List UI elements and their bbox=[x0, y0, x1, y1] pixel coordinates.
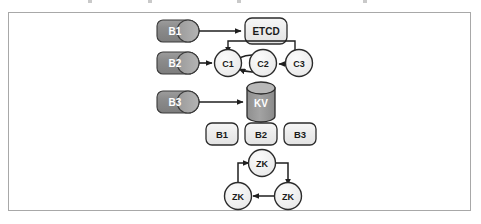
zk-bottom-right-circle[interactable]: ZK bbox=[275, 183, 302, 210]
row-consul: B2 C1 C2 C3 bbox=[157, 41, 313, 77]
row-kv: B3 KV bbox=[157, 82, 275, 122]
b2-cylinder[interactable]: B2 bbox=[157, 52, 199, 74]
c1-circle-label: C1 bbox=[222, 59, 234, 69]
architecture-diagram: B1 ETCD B2 bbox=[0, 0, 481, 224]
b2-box[interactable]: B2 bbox=[245, 123, 277, 145]
kv-cylinder[interactable]: KV bbox=[247, 82, 275, 122]
b3-cylinder[interactable]: B3 bbox=[157, 91, 199, 113]
row-zookeeper: ZK ZK ZK bbox=[225, 150, 302, 210]
etcd-box[interactable]: ETCD bbox=[245, 18, 287, 44]
row-etcd: B1 ETCD bbox=[157, 18, 287, 44]
c2-circle-label: C2 bbox=[257, 59, 269, 69]
kv-cylinder-label: KV bbox=[254, 98, 268, 109]
c3-circle[interactable]: C3 bbox=[286, 50, 313, 77]
b1-cylinder-top-label: B1 bbox=[169, 26, 182, 37]
c2-circle[interactable]: C2 bbox=[250, 50, 277, 77]
b1-box-label: B1 bbox=[216, 129, 229, 140]
c3-circle-label: C3 bbox=[293, 59, 305, 69]
b3-box[interactable]: B3 bbox=[284, 123, 316, 145]
kv-cylinder-top bbox=[247, 82, 275, 94]
edge-zk-top-to-zk-br bbox=[276, 163, 288, 185]
row-broker-boxes: B1 B2 B3 bbox=[206, 123, 316, 145]
b2-box-label: B2 bbox=[255, 129, 267, 140]
screenshot-root: B1 ETCD B2 bbox=[0, 0, 481, 224]
b1-cylinder-top[interactable]: B1 bbox=[157, 20, 199, 42]
zk-top-circle[interactable]: ZK bbox=[249, 150, 276, 177]
b1-box[interactable]: B1 bbox=[206, 123, 238, 145]
zk-bottom-right-circle-label: ZK bbox=[282, 192, 294, 202]
zk-bottom-left-circle[interactable]: ZK bbox=[225, 183, 252, 210]
zk-bottom-left-circle-label: ZK bbox=[232, 192, 244, 202]
c1-circle[interactable]: C1 bbox=[215, 50, 242, 77]
b3-cylinder-label: B3 bbox=[169, 97, 182, 108]
etcd-box-label: ETCD bbox=[252, 26, 279, 37]
b3-box-label: B3 bbox=[294, 129, 306, 140]
zk-top-circle-label: ZK bbox=[256, 159, 268, 169]
b2-cylinder-label: B2 bbox=[169, 58, 182, 69]
